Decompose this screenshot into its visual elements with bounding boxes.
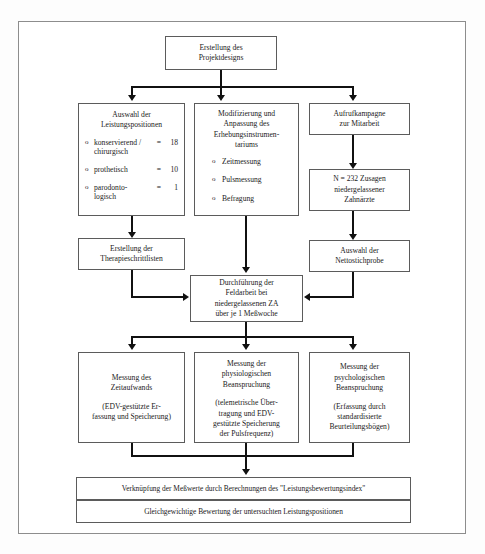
connector-top-stem [220, 70, 222, 86]
arrowhead-psychologisch [349, 344, 357, 350]
list-item: o parodonto- logisch = 1 [82, 183, 181, 202]
list-item-label: Pulsmessung [221, 175, 295, 185]
connector-merge-bus [131, 455, 354, 457]
box-messung-psychologisch: Messung der psychologischen Beanspruchun… [309, 352, 410, 443]
box-aufrufkampagne-title: Aufrufkampagne zur Mitarbeit [334, 109, 386, 130]
equals-sign: = [154, 138, 164, 148]
connector-nettostichprobe-elbow-horz [309, 296, 354, 298]
box-therapieschrittlisten-text: Erstellung der Therapieschrittlisten [100, 244, 162, 265]
box-auswahl-leistungspositionen-title: Auswahl der Leistungspositionen [101, 110, 162, 131]
box-messung-psychologisch-title: Messung der psychologischen Beanspruchun… [334, 362, 385, 393]
bullet-marker: o [85, 183, 94, 193]
diagram-canvas: Erstellung des Projektdesigns Auswahl de… [0, 0, 485, 554]
bullet-marker: o [212, 157, 221, 167]
box-zusagen-text: N = 232 Zusagen niedergelassener Zahnärz… [333, 174, 386, 205]
box-zusagen: N = 232 Zusagen niedergelassener Zahnärz… [309, 169, 410, 211]
arrowhead-feldarbeit-top [242, 267, 250, 273]
connector-nettostichprobe-elbow-vert [352, 272, 354, 298]
arrowhead-feldarbeit-left [183, 293, 189, 301]
leistungspositionen-list: o konservierend / chirurgisch = 18 o pro… [82, 138, 181, 202]
box-projektdesign-title: Erstellung des Projektdesigns [199, 43, 244, 64]
arrowhead-to-middle-column [217, 95, 225, 101]
box-messung-physiologisch: Messung der physiologischen Beanspruchun… [194, 352, 299, 443]
list-item: o Befragung [198, 194, 295, 204]
list-item: o Pulsmessung [198, 175, 295, 185]
box-projektdesign: Erstellung des Projektdesigns [165, 36, 277, 70]
bar-verknuepfung-messwerte: Verknüpfung der Meßwerte durch Berechnun… [76, 477, 411, 500]
box-messung-zeitaufwand-sub: (EDV-gestützte Er- fassung und Speicheru… [92, 402, 171, 423]
list-item: o prothetisch = 10 [82, 165, 181, 175]
bar-verknuepfung-messwerte-text: Verknüpfung der Meßwerte durch Berechnun… [122, 484, 366, 493]
box-messung-zeitaufwand-title: Messung des Zeitaufwands [111, 373, 152, 394]
list-item: o konservierend / chirurgisch = 18 [82, 138, 181, 157]
bullet-marker: o [212, 194, 221, 204]
box-feldarbeit: Durchführung der Feldarbeit bei niederge… [190, 275, 303, 322]
connector-therapieschritte-elbow-vert [131, 270, 133, 298]
bullet-marker: o [212, 175, 221, 185]
box-nettostichprobe-text: Auswahl der Nettostichprobe [335, 246, 384, 267]
list-item-value: 1 [164, 183, 181, 193]
box-auswahl-leistungspositionen: Auswahl der Leistungspositionen o konser… [78, 103, 185, 216]
connector-middle-to-feldarbeit [245, 216, 247, 268]
bar-gleichgewichtige-bewertung-text: Gleichgewichtige Bewertung der untersuch… [144, 507, 343, 516]
connector-measures-bus [131, 336, 353, 338]
equals-sign: = [154, 165, 164, 175]
erhebungsinstrumentarium-list: o Zeitmessung o Pulsmessung o Befragung [198, 157, 295, 204]
arrowhead-physiologisch [242, 344, 250, 350]
list-item-label: Befragung [221, 194, 295, 204]
equals-sign: = [154, 183, 164, 193]
arrowhead-verknuepfung [242, 469, 250, 475]
box-modifizierung-erhebungsinstrumentarium: Modifizierung und Anpassung des Erhebung… [194, 103, 299, 216]
connector-kampagne-to-zusagen [352, 135, 354, 166]
box-feldarbeit-text: Durchführung der Feldarbeit bei niederge… [215, 278, 279, 320]
box-messung-physiologisch-title: Messung der physiologischen Beanspruchun… [222, 359, 271, 390]
arrowhead-feldarbeit-right [304, 293, 310, 301]
list-item-value: 18 [164, 138, 181, 148]
box-nettostichprobe: Auswahl der Nettostichprobe [309, 240, 410, 272]
list-item-label: prothetisch [94, 165, 154, 175]
arrowhead-to-left-column [128, 95, 136, 101]
connector-therapieschritte-elbow-horz [131, 296, 185, 298]
box-modifizierung-title: Modifizierung und Anpassung des Erhebung… [214, 109, 279, 151]
list-item: o Zeitmessung [198, 157, 295, 167]
list-item-label: Zeitmessung [221, 157, 295, 167]
bullet-marker: o [85, 138, 94, 148]
arrowhead-zeitaufwand [128, 344, 136, 350]
connector-top-bus [131, 86, 353, 88]
arrowhead-to-right-column [349, 95, 357, 101]
list-item-label: konservierend / chirurgisch [94, 138, 154, 157]
box-messung-zeitaufwand: Messung des Zeitaufwands (EDV-gestützte … [78, 352, 185, 443]
bar-gleichgewichtige-bewertung: Gleichgewichtige Bewertung der untersuch… [76, 500, 411, 523]
box-therapieschrittlisten: Erstellung der Therapieschrittlisten [78, 238, 185, 270]
box-messung-psychologisch-sub: (Erfassung durch standardisierte Beurtei… [330, 402, 390, 433]
box-messung-physiologisch-sub: (telemetrische Über- tragung und EDV- ge… [213, 398, 280, 440]
bullet-marker: o [85, 165, 94, 175]
list-item-value: 10 [164, 165, 181, 175]
box-aufrufkampagne: Aufrufkampagne zur Mitarbeit [309, 103, 410, 135]
list-item-label: parodonto- logisch [94, 183, 154, 202]
